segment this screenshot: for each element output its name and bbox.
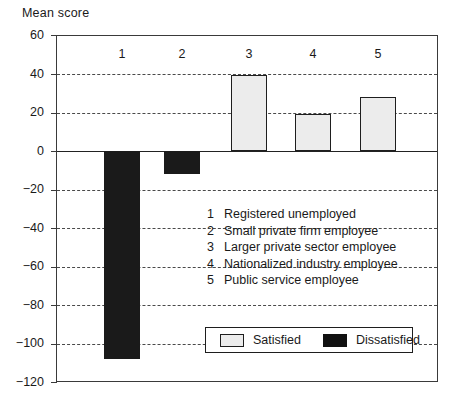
y-tick--40	[51, 228, 57, 229]
y-tick--80	[51, 305, 57, 306]
bar-5-satisfied	[360, 97, 396, 151]
category-key-row: 3Larger private sector employee	[198, 239, 398, 256]
category-key-row: 5Public service employee	[198, 272, 398, 289]
category-key-number: 4	[198, 256, 214, 273]
legend-swatch-dissatisfied	[323, 334, 347, 347]
category-number-5: 5	[375, 48, 382, 61]
y-axis-label: −60	[0, 260, 44, 273]
category-key-label: Nationalized industry employee	[224, 256, 398, 273]
legend-item-satisfied: Satisfied	[220, 334, 301, 347]
bar-4-satisfied	[295, 114, 331, 151]
y-tick-0	[51, 151, 57, 152]
y-axis-label: −20	[0, 183, 44, 196]
category-number-4: 4	[310, 48, 317, 61]
category-key-number: 1	[198, 206, 214, 223]
category-key-label: Public service employee	[224, 272, 359, 289]
category-key-row: 4Nationalized industry employee	[198, 256, 398, 273]
category-number-1: 1	[119, 48, 126, 61]
chart-figure: Mean score 6040200−20−40−60−80−100−120 1…	[0, 0, 457, 403]
y-axis-title: Mean score	[22, 6, 89, 20]
y-axis-label: −40	[0, 222, 44, 235]
y-axis-label: 40	[0, 67, 44, 80]
category-key-number: 5	[198, 272, 214, 289]
y-tick--120	[51, 382, 57, 383]
y-axis-label: −100	[0, 337, 44, 350]
category-number-3: 3	[246, 48, 253, 61]
category-key-row: 1Registered unemployed	[198, 206, 398, 223]
category-key-label: Small private firm employee	[224, 223, 378, 240]
y-tick--20	[51, 190, 57, 191]
legend-swatch-satisfied	[220, 334, 244, 347]
legend-label-dissatisfied: Dissatisfied	[356, 334, 420, 347]
y-axis-label: 0	[0, 144, 44, 157]
y-tick-40	[51, 74, 57, 75]
legend-label-satisfied: Satisfied	[253, 334, 301, 347]
category-key-number: 3	[198, 239, 214, 256]
bar-3-satisfied	[231, 75, 267, 150]
y-tick-60	[51, 35, 57, 36]
category-key-number: 2	[198, 223, 214, 240]
y-axis-label: 60	[0, 29, 44, 42]
bar-1-dissatisfied	[104, 151, 140, 359]
y-tick-20	[51, 113, 57, 114]
y-axis-label: 20	[0, 106, 44, 119]
category-key-label: Registered unemployed	[224, 206, 356, 223]
category-number-2: 2	[179, 48, 186, 61]
y-axis-label: −80	[0, 299, 44, 312]
y-tick--100	[51, 344, 57, 345]
y-tick--60	[51, 267, 57, 268]
legend-item-dissatisfied: Dissatisfied	[323, 334, 420, 347]
y-axis-label: −120	[0, 376, 44, 389]
bar-2-dissatisfied	[164, 151, 200, 174]
chart-legend: SatisfiedDissatisfied	[205, 327, 413, 353]
category-key-label: Larger private sector employee	[224, 239, 396, 256]
category-key-row: 2Small private firm employee	[198, 223, 398, 240]
category-key-list: 1Registered unemployed2Small private fir…	[198, 206, 398, 289]
